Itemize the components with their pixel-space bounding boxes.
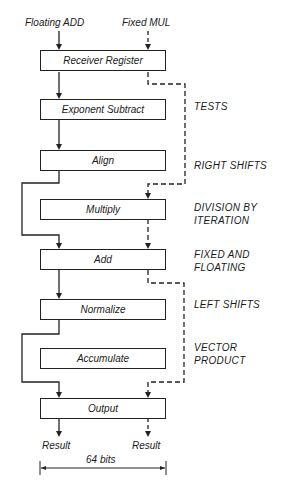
annotation-line: FLOATING bbox=[194, 261, 250, 274]
input-floating-add: Floating ADD bbox=[25, 17, 84, 28]
annotation-line: ITERATION bbox=[194, 214, 257, 227]
stage-label: Multiply bbox=[86, 204, 120, 215]
annotation-line: FIXED AND bbox=[194, 248, 250, 261]
stage-exponent-subtract: Exponent Subtract bbox=[40, 99, 166, 120]
input-fixed-mul: Fixed MUL bbox=[122, 17, 170, 28]
annotation-line: PRODUCT bbox=[194, 354, 246, 367]
result-left: Result bbox=[42, 440, 70, 451]
stage-label: Add bbox=[94, 254, 112, 265]
annotation-fixed-and-floating: FIXED AND FLOATING bbox=[194, 248, 250, 274]
result-right: Result bbox=[132, 440, 160, 451]
annotation-right-shifts: RIGHT SHIFTS bbox=[194, 159, 267, 172]
annotation-vector-product: VECTOR PRODUCT bbox=[194, 341, 246, 367]
annotation-tests: TESTS bbox=[194, 100, 228, 113]
annotation-left-shifts: LEFT SHIFTS bbox=[194, 298, 260, 311]
fixed-path-1 bbox=[148, 72, 185, 194]
stage-label: Exponent Subtract bbox=[62, 104, 144, 115]
stage-label: Normalize bbox=[80, 304, 125, 315]
width-label: 64 bits bbox=[86, 454, 115, 465]
fixed-path-2 bbox=[148, 270, 184, 393]
stage-label: Align bbox=[92, 155, 114, 166]
stage-receiver-register: Receiver Register bbox=[40, 50, 166, 71]
stage-output: Output bbox=[40, 398, 166, 419]
stage-align: Align bbox=[40, 150, 166, 171]
stage-multiply: Multiply bbox=[40, 199, 166, 220]
stage-label: Receiver Register bbox=[63, 55, 142, 66]
stage-label: Output bbox=[88, 403, 118, 414]
stage-add: Add bbox=[40, 249, 166, 270]
annotation-division-by-iteration: DIVISION BY ITERATION bbox=[194, 201, 257, 227]
stage-normalize: Normalize bbox=[40, 299, 166, 320]
stage-accumulate: Accumulate bbox=[40, 348, 166, 369]
annotation-line: DIVISION BY bbox=[194, 201, 257, 214]
annotation-line: VECTOR bbox=[194, 341, 246, 354]
stage-label: Accumulate bbox=[77, 353, 129, 364]
